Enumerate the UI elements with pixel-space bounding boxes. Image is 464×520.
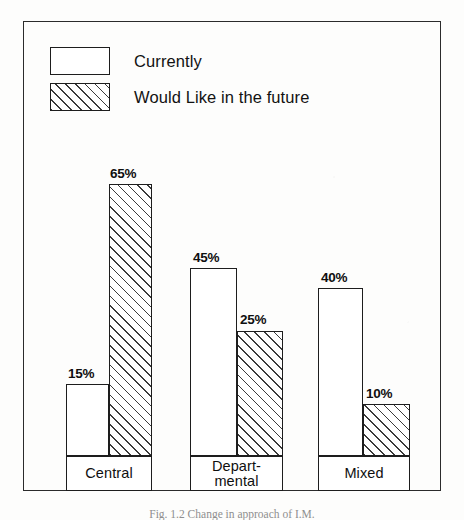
legend-item-currently: Currently: [50, 47, 202, 75]
bar-mixed-currently: [318, 288, 363, 456]
bar-value-mixed-currently: 40%: [321, 270, 347, 285]
solid-white-swatch-icon: [50, 47, 110, 75]
category-label-departmental: Depart- mental: [190, 456, 283, 491]
bar-central-future: [109, 184, 152, 456]
category-label-line1: Mixed: [344, 466, 383, 481]
category-label-line2: mental: [214, 474, 258, 489]
bar-central-currently: [66, 384, 109, 456]
category-label-central: Central: [66, 456, 152, 491]
bar-value-mixed-future: 10%: [366, 386, 392, 401]
legend-item-label: Would Like in the future: [134, 88, 309, 107]
hatched-swatch-icon: [50, 83, 110, 111]
legend-item-would-like-future: Would Like in the future: [50, 83, 309, 111]
bar-departmental-currently: [190, 268, 237, 456]
bar-value-central-future: 65%: [110, 166, 136, 181]
category-label-line1: Central: [85, 466, 132, 481]
category-label-line1: Depart-: [212, 459, 261, 474]
bar-value-central-currently: 15%: [68, 366, 94, 381]
category-label-mixed: Mixed: [318, 456, 410, 491]
bar-mixed-future: [363, 404, 410, 456]
bar-departmental-future: [237, 331, 283, 456]
legend-item-label: Currently: [134, 52, 202, 71]
figure-caption: Fig. 1.2 Change in approach of I.M.: [0, 508, 464, 520]
bar-value-departmental-future: 25%: [240, 312, 266, 327]
bar-value-departmental-currently: 45%: [193, 250, 219, 265]
